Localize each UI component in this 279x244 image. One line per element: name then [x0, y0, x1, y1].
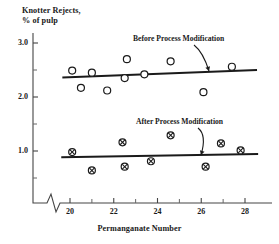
data-point-open-circle-0-0 [69, 67, 76, 74]
x-tick-label-22: 22 [102, 207, 126, 216]
x-tick-label-20: 20 [58, 207, 82, 216]
x-tick-label-26: 26 [189, 207, 213, 216]
y-tick-label-3.0: 3.0 [8, 38, 28, 47]
data-point-open-circle-0-1 [77, 84, 84, 91]
y-tick-label-1.0: 1.0 [8, 146, 28, 155]
data-point-open-circle-0-2 [88, 69, 95, 76]
data-point-open-circle-0-4 [121, 75, 128, 82]
y-tick-label-2.0: 2.0 [8, 92, 28, 101]
trend-line-series-1 [61, 154, 258, 157]
data-point-open-circle-0-7 [167, 58, 174, 65]
data-point-open-circle-0-9 [228, 63, 235, 70]
data-point-open-circle-0-6 [141, 71, 148, 78]
x-tick-label-24: 24 [146, 207, 170, 216]
knotter-rejects-chart: Knotter Rejects, % of pulp Permanganate … [0, 0, 279, 244]
data-point-open-circle-0-3 [104, 87, 111, 94]
data-point-open-circle-0-8 [200, 89, 207, 96]
annotation-arrow-before [194, 45, 209, 71]
x-tick-label-28: 28 [233, 207, 257, 216]
data-point-open-circle-0-5 [123, 56, 130, 63]
